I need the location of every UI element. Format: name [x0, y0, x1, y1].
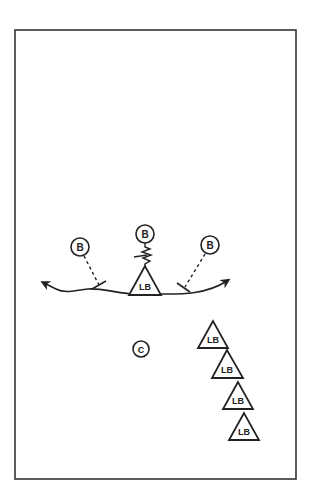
linebacker-waiting-1: LB — [198, 321, 228, 348]
linebacker-label: LB — [221, 365, 233, 375]
linebacker-waiting-4: LB — [229, 413, 259, 440]
left-run-arrow — [44, 283, 131, 294]
linebacker-waiting-3: LB — [223, 382, 253, 409]
linebacker-label: LB — [207, 335, 219, 345]
field-border — [15, 30, 296, 479]
coach-label: C — [138, 345, 145, 355]
right-run-arrow — [160, 281, 227, 294]
blocker-label: B — [76, 242, 83, 253]
blocker-center: B — [136, 225, 154, 243]
blocker-right: B — [201, 236, 219, 254]
right-block-route — [185, 254, 205, 287]
left-block-mark — [92, 281, 106, 289]
linebacker-waiting-2: LB — [212, 350, 243, 378]
blocker-label: B — [141, 229, 148, 240]
left-block-route — [84, 256, 99, 285]
drill-diagram: B B B LB C LB LB LB LB — [0, 0, 311, 502]
right-block-mark — [177, 283, 190, 292]
coach: C — [133, 341, 149, 357]
blocker-label: B — [206, 240, 213, 251]
blocker-left: B — [71, 238, 89, 256]
linebacker-label: LB — [139, 282, 151, 292]
linebacker-label: LB — [232, 396, 244, 406]
linebacker-main: LB — [129, 266, 161, 295]
linebacker-label: LB — [238, 427, 250, 437]
